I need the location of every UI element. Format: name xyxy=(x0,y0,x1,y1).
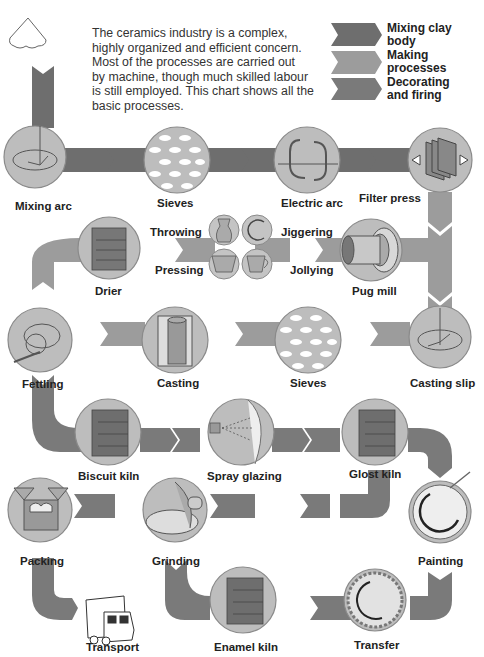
intro-line: basic processes. xyxy=(92,99,322,114)
label-pressing: Pressing xyxy=(155,264,204,276)
label-packing: Packing xyxy=(20,555,64,567)
mixing-arc-circle xyxy=(4,126,66,188)
label-electric-arc: Electric arc xyxy=(281,197,343,209)
intro-line: Most of the processes are carried out xyxy=(92,55,322,70)
intro-line: by machine, though much skilled labour xyxy=(92,70,322,85)
legend-label-decorating: Decoratingand firing xyxy=(387,76,450,102)
legend-swatches xyxy=(331,23,382,100)
biscuit-kiln-shelves-icon xyxy=(92,410,128,456)
label-glost-kiln: Glost kiln xyxy=(349,468,401,480)
label-casting-slip: Casting slip xyxy=(410,377,475,389)
label-sieves-1: Sieves xyxy=(157,197,193,209)
drier-shelves-icon xyxy=(92,228,126,270)
label-casting: Casting xyxy=(157,377,199,389)
legend-swatch-mixing xyxy=(331,23,382,46)
label-pug-mill: Pug mill xyxy=(352,285,397,297)
label-mixing-arc: Mixing arc xyxy=(15,200,72,212)
casting-mould-icon xyxy=(158,316,192,366)
legend-swatch-making xyxy=(331,51,382,74)
clay-heap-icon xyxy=(10,18,47,48)
electric-arc-circle xyxy=(274,127,340,193)
label-fettling: Fettling xyxy=(22,378,64,390)
throwing-vase-icon xyxy=(216,219,231,242)
label-biscuit-kiln: Biscuit kiln xyxy=(78,470,139,482)
transport-truck-icon xyxy=(86,596,134,645)
legend-swatch-decorating xyxy=(331,78,382,100)
enamel-kiln-shelves-icon xyxy=(227,578,263,624)
pressing-bowl-icon xyxy=(212,256,236,272)
intro-text: The ceramics industry is a complex, high… xyxy=(92,26,322,114)
label-grinding: Grinding xyxy=(152,555,200,567)
label-jollying: Jollying xyxy=(290,264,333,276)
label-filter-press: Filter press xyxy=(359,192,421,204)
label-painting: Painting xyxy=(418,555,463,567)
label-drier: Drier xyxy=(95,285,122,297)
intro-line: highly organized and efficient concern. xyxy=(92,41,322,56)
intro-line: The ceramics industry is a complex, xyxy=(92,26,322,41)
label-enamel-kiln: Enamel kiln xyxy=(214,641,278,653)
legend-label-making: Makingprocesses xyxy=(387,49,446,75)
label-sieves-2: Sieves xyxy=(290,377,326,389)
label-transfer: Transfer xyxy=(354,639,399,651)
label-jiggering: Jiggering xyxy=(281,226,333,238)
transfer-plate-icon xyxy=(348,573,402,627)
intro-line: is still employed. This chart shows all … xyxy=(92,84,322,99)
glost-kiln-shelves-icon xyxy=(359,410,395,456)
fettling-circle xyxy=(8,308,72,372)
legend-label-mixing: Mixing claybody xyxy=(387,22,452,48)
label-transport: Transport xyxy=(86,641,139,653)
label-throwing: Throwing xyxy=(150,226,202,238)
label-spray-glazing: Spray glazing xyxy=(207,470,282,482)
